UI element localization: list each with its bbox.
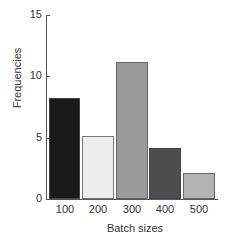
bar-500 (183, 173, 215, 199)
x-axis-line (46, 199, 218, 200)
y-tick-label: 0 (26, 192, 42, 204)
y-tick-label: 15 (26, 8, 42, 20)
x-tick-label: 400 (148, 203, 182, 215)
y-tick-10 (46, 76, 50, 77)
bar-200 (82, 136, 114, 199)
bar-100 (49, 98, 80, 199)
x-tick-label: 100 (48, 203, 82, 215)
y-tick-label: 10 (26, 69, 42, 81)
x-axis-label: Batch sizes (60, 222, 210, 234)
x-tick-label: 200 (81, 203, 115, 215)
bar-300 (116, 62, 148, 199)
x-tick-label: 300 (115, 203, 149, 215)
y-tick-label: 5 (26, 131, 42, 143)
y-axis-line (46, 15, 47, 199)
y-tick-15 (46, 15, 50, 16)
bar-400 (149, 148, 181, 199)
x-tick-label: 500 (182, 203, 216, 215)
y-axis-label: Frequencies (11, 43, 23, 113)
